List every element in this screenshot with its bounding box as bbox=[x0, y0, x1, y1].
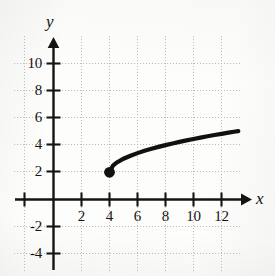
x-tick-label-8: 8 bbox=[155, 209, 176, 224]
y-tick-label-6: 6 bbox=[14, 110, 42, 125]
y-axis-label: y bbox=[46, 13, 54, 30]
y-axis-arrowhead bbox=[48, 37, 60, 48]
y-tick-label-2: 2 bbox=[14, 164, 42, 179]
function-curve bbox=[110, 131, 239, 172]
x-axis-arrowhead bbox=[241, 194, 252, 206]
y-tick-label-4: 4 bbox=[14, 137, 42, 152]
x-tick-label-12: 12 bbox=[208, 209, 235, 224]
grid-lines bbox=[14, 36, 241, 272]
y-tick-label-8: 8 bbox=[14, 83, 42, 98]
y-tick-label-minus-4: -4 bbox=[10, 246, 42, 261]
endpoint-filled-dot bbox=[104, 167, 115, 178]
y-tick-label-minus-2: -2 bbox=[10, 219, 42, 234]
x-tick-label-2: 2 bbox=[71, 209, 92, 224]
y-tick-label-10: 10 bbox=[14, 56, 42, 71]
graph-figure: 10 8 6 4 2 -2 -4 2 4 6 8 10 12 y x bbox=[0, 0, 275, 276]
x-tick-label-4: 4 bbox=[99, 209, 120, 224]
x-axis-label: x bbox=[256, 190, 264, 207]
x-tick-label-10: 10 bbox=[180, 209, 207, 224]
x-tick-label-6: 6 bbox=[127, 209, 148, 224]
